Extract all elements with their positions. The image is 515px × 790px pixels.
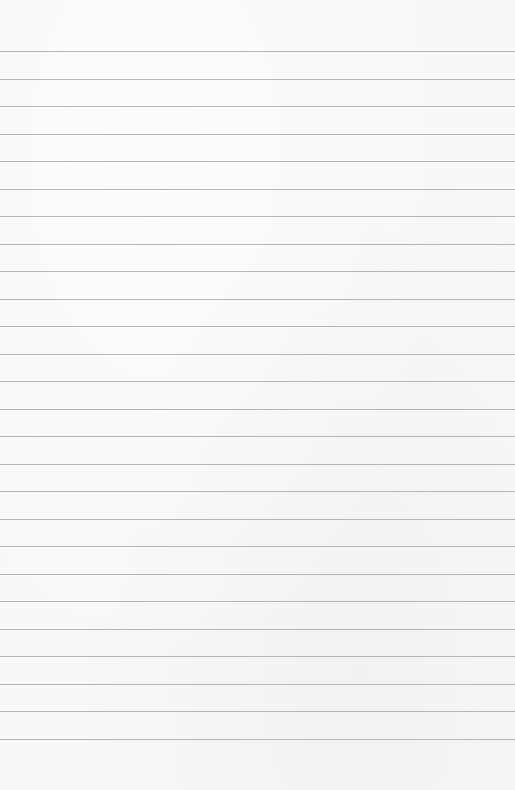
ruled-line [0,711,515,712]
ruled-line [0,134,515,135]
ruled-line [0,216,515,217]
ruled-line [0,354,515,355]
ruled-line [0,381,515,382]
ruled-line [0,271,515,272]
ruled-line [0,79,515,80]
ruled-line [0,51,515,52]
ruled-line [0,574,515,575]
ruled-line [0,299,515,300]
ruled-line [0,519,515,520]
lined-paper-sheet [0,0,515,790]
ruled-line [0,464,515,465]
ruled-line [0,436,515,437]
ruled-line [0,189,515,190]
ruled-line [0,629,515,630]
ruled-line [0,106,515,107]
ruled-line [0,326,515,327]
ruled-line [0,601,515,602]
ruled-line [0,244,515,245]
ruled-line [0,491,515,492]
ruled-line [0,409,515,410]
ruled-line [0,684,515,685]
ruled-line [0,656,515,657]
ruled-line [0,546,515,547]
ruled-line [0,161,515,162]
ruled-line [0,739,515,740]
